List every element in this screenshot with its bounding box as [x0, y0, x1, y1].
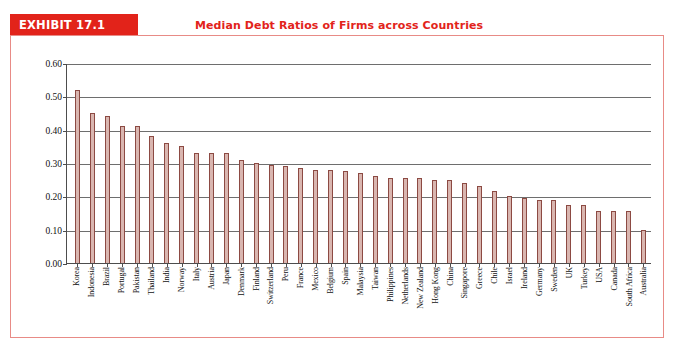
- x-label-slot: Japan: [218, 266, 233, 328]
- bar-slot: [576, 64, 591, 263]
- bar-slot: [338, 64, 353, 263]
- bar-slot: [591, 64, 606, 263]
- chart-title: Median Debt Ratios of Firms across Count…: [195, 19, 483, 32]
- bar-slot: [144, 64, 159, 263]
- bar-slot: [159, 64, 174, 263]
- y-axis-tick-label: 0.10: [16, 226, 62, 236]
- bar-slot: [115, 64, 130, 263]
- x-label-slot: France: [293, 266, 308, 328]
- bar-slot: [264, 64, 279, 263]
- x-axis-tick-label: Israel: [505, 267, 514, 284]
- x-axis-tick-label: UK: [564, 267, 573, 278]
- bar-slot: [278, 64, 293, 263]
- x-axis-tick-label: Canada: [609, 267, 618, 290]
- exhibit-figure: EXHIBIT 17.1 Median Debt Ratios of Firms…: [0, 0, 674, 353]
- x-axis-tick-label: Japan: [221, 267, 230, 285]
- bar: [477, 186, 482, 263]
- bar-slot: [219, 64, 234, 263]
- bar: [388, 178, 393, 263]
- bar-slot: [502, 64, 517, 263]
- bar-slot: [189, 64, 204, 263]
- bar: [194, 153, 199, 263]
- bar: [224, 153, 229, 263]
- chart-panel: 0.000.100.200.300.400.500.60 KoreaIndone…: [10, 35, 664, 338]
- x-label-slot: Philippines: [382, 266, 397, 328]
- bar: [641, 230, 646, 263]
- bar: [417, 178, 422, 263]
- x-axis-labels: KoreaIndonesiaBrazilPortugalPakistanThai…: [66, 266, 651, 328]
- x-label-slot: Finland: [248, 266, 263, 328]
- bar-slot: [308, 64, 323, 263]
- bar: [507, 196, 512, 263]
- bar-slot: [353, 64, 368, 263]
- x-axis-tick-label: Malaysia: [355, 267, 364, 296]
- x-axis-tick-label: Ireland: [520, 267, 529, 289]
- x-label-slot: Chile: [487, 266, 502, 328]
- exhibit-header: EXHIBIT 17.1 Median Debt Ratios of Firms…: [10, 14, 664, 36]
- bar-slot: [517, 64, 532, 263]
- x-axis-tick-label: Mexico: [311, 267, 320, 291]
- x-axis-tick-label: Chile: [490, 267, 499, 284]
- x-axis-tick-label: Switzerland: [266, 267, 275, 304]
- x-label-slot: New Zealand: [412, 266, 427, 328]
- y-axis-tick-label: 0.60: [16, 59, 62, 69]
- bar: [135, 126, 140, 263]
- bar: [90, 113, 95, 263]
- x-axis-tick-label: USA: [594, 267, 603, 283]
- bar-slot: [130, 64, 145, 263]
- bar-slot: [427, 64, 442, 263]
- x-axis-tick-label: Austria: [206, 267, 215, 290]
- x-axis-tick-label: China: [445, 267, 454, 286]
- bar-slot: [368, 64, 383, 263]
- bar: [105, 116, 110, 263]
- x-label-slot: Hong Kong: [427, 266, 442, 328]
- bar-slot: [249, 64, 264, 263]
- x-axis-tick-label: Norway: [176, 267, 185, 292]
- bar-slot: [487, 64, 502, 263]
- x-axis-tick-label: Indonesia: [87, 267, 96, 297]
- x-axis-tick-label: India: [161, 267, 170, 283]
- x-axis-tick-label: Singapore: [460, 267, 469, 299]
- x-axis-tick-label: Denmark: [236, 267, 245, 296]
- bar: [566, 205, 571, 263]
- x-label-slot: Israel: [502, 266, 517, 328]
- x-label-slot: Germany: [532, 266, 547, 328]
- bar-slot: [457, 64, 472, 263]
- x-label-slot: Norway: [173, 266, 188, 328]
- bar-slot: [234, 64, 249, 263]
- x-axis-tick-label: Australia: [639, 267, 648, 295]
- x-axis-tick-label: Greece: [475, 267, 484, 289]
- bar: [358, 173, 363, 263]
- x-axis-tick-label: Thailand: [147, 267, 156, 295]
- x-axis-tick-label: France: [296, 267, 305, 288]
- x-label-slot: Mexico: [308, 266, 323, 328]
- bar: [537, 200, 542, 263]
- x-axis-tick-label: Pakistan: [132, 267, 141, 293]
- bar-slot: [412, 64, 427, 263]
- bar-slot: [85, 64, 100, 263]
- bar: [179, 146, 184, 263]
- bar-slot: [100, 64, 115, 263]
- x-label-slot: Taiwan: [367, 266, 382, 328]
- x-axis-tick-label: Sweden: [549, 267, 558, 292]
- x-label-slot: Australia: [636, 266, 651, 328]
- bar-slot: [472, 64, 487, 263]
- x-label-slot: Spain: [338, 266, 353, 328]
- bar: [239, 160, 244, 263]
- x-label-slot: Pakistan: [129, 266, 144, 328]
- bar: [432, 180, 437, 263]
- x-label-slot: UK: [561, 266, 576, 328]
- x-label-slot: Portugal: [114, 266, 129, 328]
- bar-slot: [442, 64, 457, 263]
- bar-slot: [547, 64, 562, 263]
- bar: [492, 191, 497, 263]
- y-axis-tick-label: 0.30: [16, 159, 62, 169]
- x-axis-tick-label: Brazil: [102, 267, 111, 286]
- x-axis-tick-label: Taiwan: [370, 267, 379, 290]
- x-axis-tick-label: Korea: [72, 267, 81, 286]
- bar: [611, 211, 616, 263]
- bar: [120, 126, 125, 263]
- bar-slot: [532, 64, 547, 263]
- bar: [313, 170, 318, 263]
- bar: [328, 170, 333, 263]
